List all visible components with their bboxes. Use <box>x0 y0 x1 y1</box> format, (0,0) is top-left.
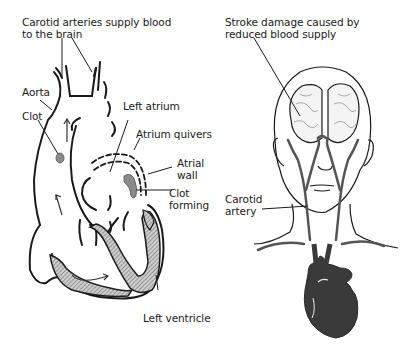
label-carotid-artery: Carotid artery <box>225 193 262 217</box>
afib-stroke-diagram: Carotid arteries supply blood to the bra… <box>0 0 413 352</box>
label-clot: Clot <box>22 110 42 122</box>
label-line: artery <box>225 205 262 217</box>
label-line: wall <box>177 169 204 181</box>
heart-silhouette <box>304 256 358 338</box>
brain-illustration <box>290 84 359 143</box>
label-stroke-damage: Stroke damage caused by reduced blood su… <box>225 16 359 40</box>
clot-icon <box>56 153 64 163</box>
label-atrial-wall: Atrial wall <box>177 157 204 181</box>
blood-flow-arrows <box>56 119 108 280</box>
head-outline <box>254 67 398 248</box>
clot-forming-icon <box>124 174 137 198</box>
label-aorta: Aorta <box>22 86 50 98</box>
label-clot-forming: Clot forming <box>169 187 209 211</box>
label-line: Atrial <box>177 157 204 169</box>
label-line: Carotid arteries supply blood <box>22 16 171 28</box>
label-line: Carotid <box>225 193 262 205</box>
label-line: Stroke damage caused by <box>225 16 359 28</box>
label-line: Clot <box>169 187 209 199</box>
diagram-illustration <box>0 0 413 352</box>
label-atrium-quivers: Atrium quivers <box>136 128 212 140</box>
label-line: forming <box>169 199 209 211</box>
label-line: reduced blood supply <box>225 28 359 40</box>
label-left-atrium: Left atrium <box>123 100 180 112</box>
label-left-ventricle: Left ventricle <box>143 312 211 324</box>
label-line: to the brain <box>22 28 171 40</box>
label-carotid-arteries: Carotid arteries supply blood to the bra… <box>22 16 171 40</box>
arteries <box>258 136 384 250</box>
